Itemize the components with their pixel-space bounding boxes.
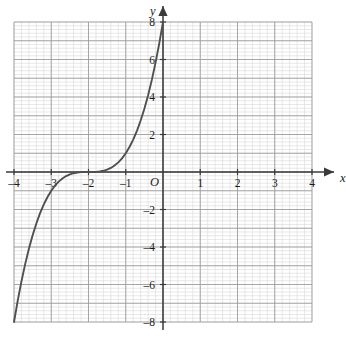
x-tick-label: 3 <box>272 177 278 189</box>
y-tick-label: –6 <box>143 279 156 291</box>
x-tick-label: 4 <box>309 177 315 189</box>
x-tick-label: –3 <box>45 177 58 189</box>
y-tick-label: –8 <box>143 316 156 328</box>
x-tick-label: –4 <box>7 177 20 189</box>
y-tick-label: 4 <box>149 91 155 103</box>
graph-figure: –4–3–2–11234 8642–2–4–6–8 O x y <box>0 0 346 343</box>
x-axis-label: x <box>339 171 346 185</box>
y-tick-label: –4 <box>143 241 156 253</box>
y-tick-label: 8 <box>149 16 155 28</box>
cubic-graph-plot: –4–3–2–11234 8642–2–4–6–8 O x y <box>0 0 346 343</box>
y-tick-label: –2 <box>143 204 156 216</box>
x-tick-label: –2 <box>82 177 95 189</box>
x-tick-label: 1 <box>197 177 203 189</box>
x-tick-label: 2 <box>235 177 241 189</box>
y-axis-label: y <box>148 4 156 18</box>
origin-label: O <box>150 175 159 189</box>
x-tick-label: –1 <box>119 177 132 189</box>
y-tick-label: 2 <box>149 129 155 141</box>
